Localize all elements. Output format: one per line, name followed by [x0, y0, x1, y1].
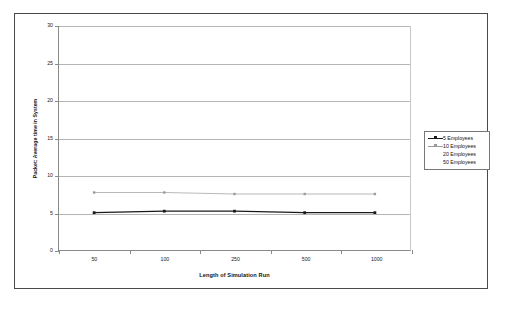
x-tick-mark	[412, 250, 413, 254]
x-tick-label: 250	[231, 257, 240, 262]
x-tick-mark	[200, 250, 201, 254]
legend-item[interactable]: 50 Employees	[428, 158, 486, 166]
legend[interactable]: 5 Employees10 Employees20 Employees50 Em…	[424, 131, 490, 170]
legend-marker-icon	[434, 144, 437, 147]
data-point-marker	[304, 193, 306, 195]
data-point-marker	[93, 191, 95, 193]
legend-item[interactable]: 5 Employees	[428, 134, 486, 142]
chart-area: Packet: Average time in System 051015202…	[15, 14, 489, 290]
x-tick-label: 500	[302, 257, 311, 262]
x-tick-label: 1000	[371, 257, 383, 262]
legend-key-icon	[428, 150, 443, 158]
legend-key-icon	[428, 134, 443, 142]
data-series-layer	[59, 26, 410, 250]
legend-item-label: 5 Employees	[443, 134, 473, 142]
chart-page: Packet: Average time in System 051015202…	[0, 0, 506, 309]
plot-area: 051015202530 501002505001000	[58, 26, 411, 251]
legend-item[interactable]: 20 Employees	[428, 150, 486, 158]
y-tick-label: 30	[47, 23, 53, 28]
data-point-marker	[233, 210, 236, 213]
legend-item-label: 50 Employees	[443, 158, 476, 166]
x-tick-mark	[130, 250, 131, 254]
data-point-marker	[233, 193, 235, 195]
x-tick-mark	[271, 250, 272, 254]
x-tick-mark	[341, 250, 342, 254]
y-axis-title: Packet: Average time in System	[29, 26, 41, 251]
legend-item[interactable]: 10 Employees	[428, 142, 486, 150]
legend-key-icon	[428, 142, 443, 150]
y-tick-label: 5	[50, 211, 53, 216]
data-point-marker	[163, 191, 165, 193]
y-tick-label: 25	[47, 61, 53, 66]
y-tick-label: 0	[50, 248, 53, 253]
data-point-marker	[163, 210, 166, 213]
legend-item-label: 10 Employees	[443, 142, 476, 150]
y-tick-label: 10	[47, 173, 53, 178]
legend-key-icon	[428, 158, 443, 166]
x-axis-title: Length of Simulation Run	[58, 272, 411, 278]
data-point-marker	[374, 193, 376, 195]
x-tick-label: 100	[161, 257, 170, 262]
figure-frame: Packet: Average time in System 051015202…	[14, 13, 488, 289]
x-tick-mark	[59, 250, 60, 254]
data-point-marker	[374, 211, 377, 214]
data-point-marker	[93, 211, 96, 214]
y-tick-label: 15	[47, 136, 53, 141]
legend-marker-icon	[434, 136, 437, 139]
y-tick-label: 20	[47, 98, 53, 103]
legend-item-label: 20 Employees	[443, 150, 476, 158]
data-point-marker	[303, 211, 306, 214]
x-tick-label: 50	[91, 257, 97, 262]
